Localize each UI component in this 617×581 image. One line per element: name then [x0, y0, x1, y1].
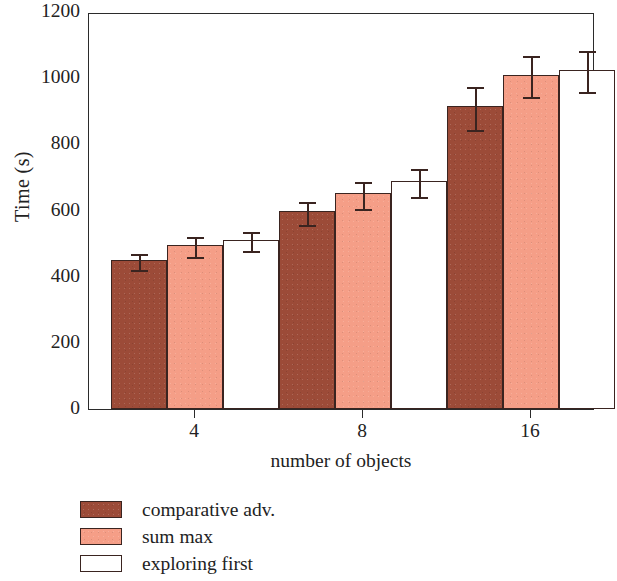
y-tick-label: 1200: [8, 0, 80, 22]
x-axis-title: number of objects: [88, 450, 594, 472]
bar: [335, 193, 391, 409]
error-bar-line: [531, 56, 533, 97]
error-bar-line: [587, 51, 589, 92]
error-bar-line: [195, 237, 197, 257]
y-tick-label: 800: [8, 132, 80, 154]
bar: [559, 70, 615, 409]
error-bar-cap-top: [467, 87, 484, 89]
bar: [167, 245, 223, 409]
legend-item: comparative adv.: [80, 496, 275, 523]
error-bar-cap-bottom: [355, 209, 372, 211]
x-tick-mark: [194, 410, 195, 418]
error-bar-line: [139, 254, 141, 271]
error-bar-cap-top: [187, 237, 204, 239]
x-tick-label: 8: [332, 420, 392, 442]
x-tick-label: 16: [500, 420, 560, 442]
legend-swatch: [80, 555, 122, 572]
x-tick-label: 4: [164, 420, 224, 442]
error-bar-cap-bottom: [131, 270, 148, 272]
plot-area: [88, 13, 594, 410]
error-bar-cap-bottom: [243, 251, 260, 253]
error-bar-line: [419, 169, 421, 197]
bar: [223, 240, 279, 409]
legend-label: sum max: [142, 526, 213, 548]
error-bar-cap-bottom: [579, 92, 596, 94]
error-bar-cap-top: [131, 254, 148, 256]
error-bar-cap-top: [579, 51, 596, 53]
y-tick-label: 200: [8, 331, 80, 353]
bar: [279, 211, 335, 409]
x-tick-mark: [530, 410, 531, 418]
error-bar-cap-bottom: [299, 225, 316, 227]
error-bar-cap-bottom: [467, 130, 484, 132]
y-tick-label: 1000: [8, 66, 80, 88]
legend-item: sum max: [80, 523, 275, 550]
error-bar-line: [307, 202, 309, 225]
bar: [111, 260, 167, 409]
y-tick-label: 600: [8, 199, 80, 221]
error-bar-cap-bottom: [187, 257, 204, 259]
chart-legend: comparative adv.sum maxexploring first: [80, 496, 275, 577]
error-bar-cap-top: [523, 56, 540, 58]
error-bar-cap-top: [411, 169, 428, 171]
error-bar-cap-bottom: [523, 97, 540, 99]
bar: [503, 75, 559, 409]
legend-swatch: [80, 528, 122, 545]
y-tick-label: 0: [8, 397, 80, 419]
legend-item: exploring first: [80, 550, 275, 577]
legend-label: exploring first: [142, 553, 253, 575]
error-bar-cap-top: [243, 232, 260, 234]
bar-chart-figure: Time (s) 020040060080010001200 4816 numb…: [0, 0, 617, 581]
x-tick-mark: [362, 410, 363, 418]
error-bar-cap-top: [355, 182, 372, 184]
legend-label: comparative adv.: [142, 499, 275, 521]
y-tick-label: 400: [8, 265, 80, 287]
error-bar-cap-top: [299, 202, 316, 204]
error-bar-line: [475, 87, 477, 130]
legend-swatch: [80, 501, 122, 518]
error-bar-cap-bottom: [411, 197, 428, 199]
bar: [447, 106, 503, 409]
bar: [391, 181, 447, 409]
error-bar-line: [363, 182, 365, 208]
error-bar-line: [251, 232, 253, 251]
